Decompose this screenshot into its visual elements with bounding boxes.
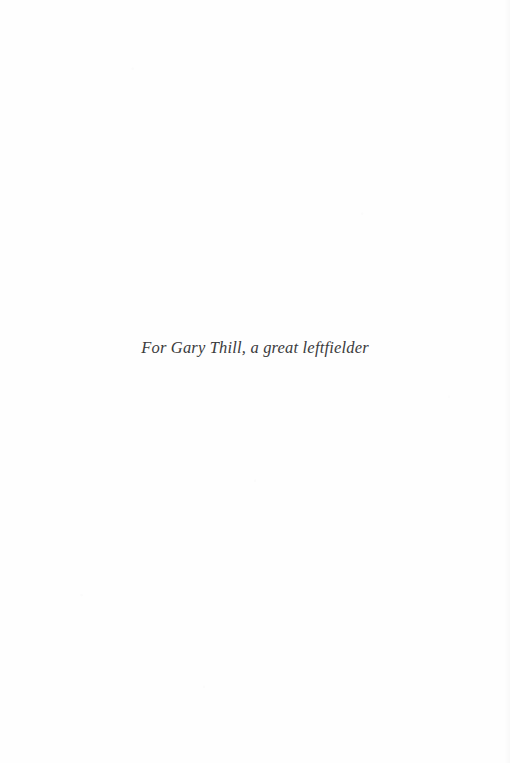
dedication-block: For Gary Thill, a great leftfielder <box>0 338 510 358</box>
dedication-text: For Gary Thill, a great leftfielder <box>141 338 369 358</box>
book-page: For Gary Thill, a great leftfielder <box>0 0 510 763</box>
paper-texture <box>0 0 510 763</box>
